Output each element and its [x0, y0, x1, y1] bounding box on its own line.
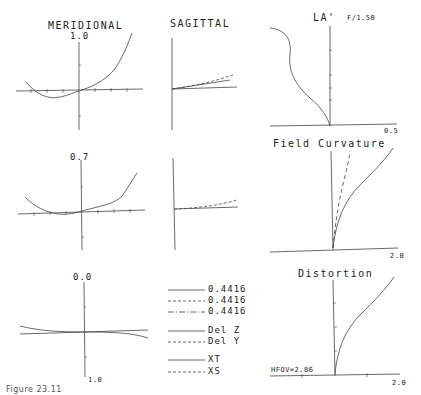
la-plot — [270, 26, 397, 126]
f-number-label: F/1.50 — [347, 14, 375, 22]
distortion-title: Distortion — [298, 268, 373, 279]
hfov-label: HFOV=2.86 — [271, 366, 313, 374]
legend-label-xs: XS — [208, 366, 221, 376]
legend-label-3: 0.4416 — [208, 306, 247, 316]
la-scale-label: 0.5 — [384, 127, 398, 135]
sagittal-0-7-plot — [173, 158, 238, 250]
sagittal-1-0-plot — [172, 38, 237, 130]
legend-label-del-y: Del Y — [208, 336, 240, 346]
figure-caption: Figure 23.11 — [6, 385, 62, 394]
legend-label-xt: XT — [208, 354, 221, 364]
legend-label-1: 0.4416 — [208, 284, 247, 294]
sagittal-title: SAGITTAL — [170, 18, 230, 29]
ray-scale-label: 1.0 — [88, 376, 102, 384]
meridional-0-0-plot — [20, 282, 148, 377]
field-curvature-title: Field Curvature — [273, 138, 386, 149]
legend-lines — [168, 290, 205, 372]
field-label-0-0: 0.0 — [73, 272, 92, 282]
legend-label-del-z: Del Z — [208, 325, 240, 335]
field-label-0-7: 0.7 — [70, 152, 89, 162]
distortion-plot — [270, 277, 400, 378]
field-curvature-scale-label: 2.0 — [390, 252, 404, 260]
distortion-scale-label: 2.0 — [392, 379, 406, 387]
field-curvature-plot — [270, 148, 398, 252]
legend-label-2: 0.4416 — [208, 295, 247, 305]
la-title: LA' — [313, 12, 336, 23]
meridional-0-7-plot — [18, 160, 145, 250]
field-label-1-0: 1.0 — [70, 31, 89, 41]
meridional-1-0-plot — [16, 33, 143, 130]
meridional-title: MERIDIONAL — [48, 20, 123, 31]
